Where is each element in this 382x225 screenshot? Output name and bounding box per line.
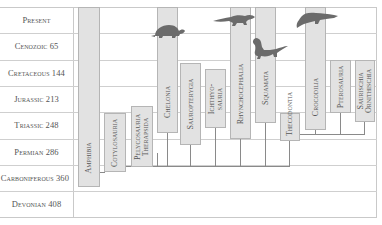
period-triassic: Triassic 248 bbox=[0, 112, 73, 138]
period-jurassic: Jurassic 213 bbox=[0, 86, 73, 112]
chelonia-stem bbox=[167, 132, 168, 166]
rhynchocephalia-stem bbox=[240, 139, 241, 166]
thecodontia-stem bbox=[289, 141, 290, 167]
ichthyosauria-stem bbox=[215, 128, 216, 166]
period-cretaceous: Cretaceous 144 bbox=[0, 60, 73, 86]
label-pterosauria: Pterosauria bbox=[337, 65, 345, 107]
bar-cotylosauria: Cotylosauria bbox=[104, 113, 126, 172]
bar-thecodontia: Thecodontia bbox=[280, 113, 300, 141]
label-ichthyosauria-line2: sauria bbox=[215, 87, 224, 109]
label-ornithischia: Ornithischia bbox=[364, 69, 373, 113]
label-crocodilia: Crocodilia bbox=[312, 78, 320, 116]
turtle-icon bbox=[151, 24, 185, 40]
label-thecodontia: Thecodontia bbox=[286, 92, 294, 136]
bar-squamata: Squamata bbox=[255, 7, 276, 123]
bar-pterosauria: Pterosauria bbox=[330, 60, 351, 113]
label-ichthyosauria: Ichthyo- sauria bbox=[208, 83, 224, 113]
bar-saurischia-ornithischia: Saurischia Ornithischia bbox=[355, 60, 375, 122]
bar-amphibia: Amphibia bbox=[78, 7, 100, 187]
label-pelycosauria-therapsida: Pelycosauria Therapsida bbox=[134, 113, 150, 159]
period-permian: Permian 286 bbox=[0, 139, 73, 165]
label-sauropterygia: Sauropterygia bbox=[187, 79, 195, 130]
period-present: Present bbox=[0, 7, 73, 33]
period-cenozoic: Cenozoic 65 bbox=[0, 33, 73, 59]
label-rhynchocephalia: Rhynchocephalia bbox=[237, 64, 245, 125]
bar-sauropterygia: Sauropterygia bbox=[180, 63, 201, 145]
period-devonian: Devonian 408 bbox=[0, 191, 73, 217]
label-chelonia: Chelonia bbox=[164, 86, 172, 118]
branch-line bbox=[100, 172, 105, 173]
label-saurischia-ornithischia: Saurischia Ornithischia bbox=[357, 69, 373, 113]
label-cotylosauria: Cotylosauria bbox=[111, 118, 119, 166]
squamata-stem bbox=[265, 123, 266, 166]
period-carboniferous: Carboniferous 360 bbox=[0, 165, 73, 191]
pterosauria-stem bbox=[340, 113, 341, 134]
archosaur-branch-line bbox=[300, 134, 365, 135]
evolution-timeline-diagram: Present Cenozoic 65 Cretaceous 144 Juras… bbox=[0, 0, 382, 225]
bar-pelycosauria-therapsida: Pelycosauria Therapsida bbox=[131, 106, 153, 167]
label-amphibia: Amphibia bbox=[85, 142, 93, 173]
label-therapsida: Therapsida bbox=[141, 117, 150, 156]
therapsida-stem bbox=[157, 153, 158, 166]
crocodile-icon bbox=[296, 12, 338, 30]
lizard-icon bbox=[252, 38, 288, 60]
label-squamata: Squamata bbox=[262, 71, 270, 105]
sauropterygia-stem bbox=[190, 145, 191, 166]
crocodilia-stem bbox=[315, 130, 316, 134]
dinosauria-stem bbox=[364, 122, 365, 134]
bar-ichthyosauria: Ichthyo- sauria bbox=[205, 69, 226, 128]
tuatara-icon bbox=[213, 12, 255, 28]
